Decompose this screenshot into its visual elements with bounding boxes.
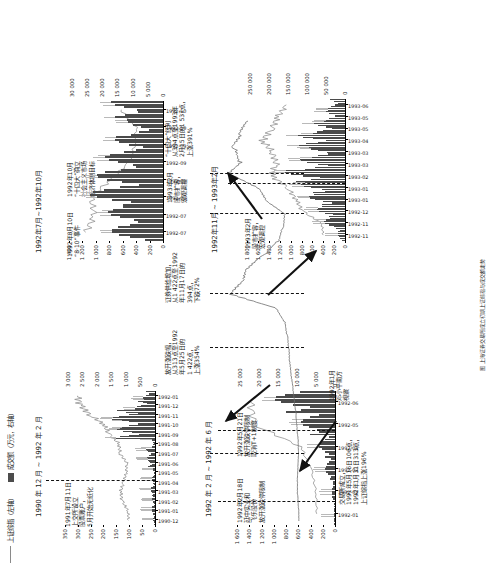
arrow-overview-to-panel3 bbox=[268, 251, 316, 295]
figure-caption: 图 上海证券交易所成立初期上证综指与成交额走势 bbox=[478, 259, 485, 371]
arrow-overview-to-panel4 bbox=[228, 173, 262, 219]
arrow-overview-to-panel1 bbox=[300, 421, 336, 471]
connector-arrows bbox=[0, 0, 495, 571]
arrow-overview-to-panel2 bbox=[226, 385, 270, 421]
figure-canvas: 上证综指（左轴） 成交额（万元，右轴） 1990 年 12 月 ~ 1992 年… bbox=[0, 0, 495, 571]
